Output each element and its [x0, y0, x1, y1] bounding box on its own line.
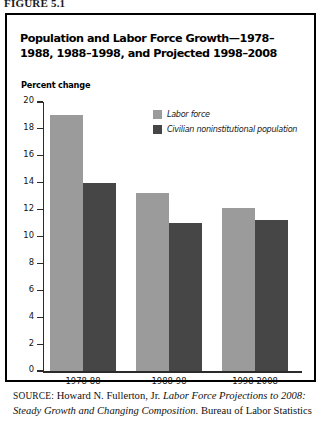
source-author: Howard N. Fullerton, Jr. — [57, 390, 161, 401]
y-tick-mark — [37, 155, 43, 156]
y-tick-label: 8 — [29, 257, 34, 267]
source-note: SOURCE: Howard N. Fullerton, Jr. Labor F… — [13, 389, 313, 418]
y-tick-mark — [37, 182, 43, 183]
x-axis-line — [43, 371, 302, 373]
y-tick-16: 16 — [37, 155, 43, 156]
bar-1978-88-labor-force — [50, 115, 83, 371]
y-tick-mark — [37, 263, 43, 264]
y-tick-0: 0 — [37, 370, 43, 371]
y-tick-mark — [37, 128, 43, 129]
y-tick-label: 14 — [23, 176, 34, 186]
y-axis-line — [43, 102, 44, 372]
y-tick-label: 6 — [29, 284, 34, 294]
figure-caption: FIGURE 5.1 — [4, 0, 65, 9]
bar-1998-2008-labor-force — [222, 208, 255, 371]
source-label: SOURCE: — [13, 391, 54, 401]
x-tick-label-1988-98: 1988-98 — [122, 376, 216, 386]
y-tick-8: 8 — [37, 263, 43, 264]
y-tick-mark — [37, 290, 43, 291]
y-tick-6: 6 — [37, 290, 43, 291]
bar-1988-98-labor-force — [136, 193, 169, 371]
bar-1988-98-civilian-population — [169, 223, 202, 371]
y-tick-label: 18 — [23, 122, 34, 132]
y-tick-label: 20 — [23, 95, 34, 105]
y-tick-label: 12 — [23, 203, 34, 213]
y-tick-2: 2 — [37, 344, 43, 345]
y-tick-mark — [37, 209, 43, 210]
bar-1998-2008-civilian-population — [255, 220, 288, 371]
y-tick-20: 20 — [37, 101, 43, 102]
y-tick-mark — [37, 370, 43, 371]
y-tick-mark — [37, 344, 43, 345]
y-tick-label: 2 — [29, 338, 34, 348]
figure-box: Population and Labor Force Growth—1978–1… — [5, 13, 316, 382]
y-tick-12: 12 — [37, 209, 43, 210]
x-tick-label-1998-2008: 1998-2008 — [208, 376, 302, 386]
y-tick-label: 10 — [23, 230, 34, 240]
y-tick-mark — [37, 317, 43, 318]
bar-1978-88-civilian-population — [83, 183, 116, 371]
y-tick-mark — [37, 236, 43, 237]
x-tick-label-1978-88: 1978-88 — [36, 376, 130, 386]
y-tick-mark — [37, 101, 43, 102]
y-tick-label: 16 — [23, 149, 34, 159]
y-tick-4: 4 — [37, 317, 43, 318]
y-tick-label: 0 — [29, 364, 34, 374]
bar-chart-plot: 02468101214161820 1978-881988-981998-200… — [7, 15, 318, 384]
y-tick-14: 14 — [37, 182, 43, 183]
y-tick-10: 10 — [37, 236, 43, 237]
y-tick-label: 4 — [29, 311, 34, 321]
y-tick-18: 18 — [37, 128, 43, 129]
source-publisher: Bureau of Labor Statistics — [201, 405, 312, 416]
